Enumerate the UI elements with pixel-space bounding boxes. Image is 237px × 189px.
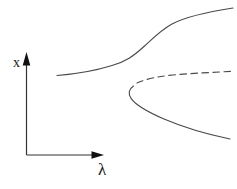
y-axis-label: x <box>13 55 20 70</box>
x-axis-arrowhead-icon <box>92 151 105 159</box>
x-axis-label: λ <box>98 160 107 179</box>
lower-stable-branch-curve <box>129 86 230 139</box>
upper-stable-branch-curve <box>57 8 233 76</box>
y-axis-arrowhead-icon <box>23 52 31 66</box>
unstable-branch-dashed-curve <box>137 71 232 83</box>
diagram-canvas: x λ <box>0 0 237 189</box>
bifurcation-diagram: x λ <box>0 0 237 189</box>
